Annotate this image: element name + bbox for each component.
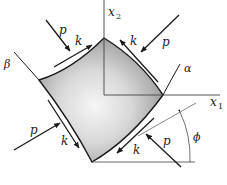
x1-label-sub: 1 [218, 102, 223, 111]
top-right-k-label: k [130, 34, 137, 48]
bottom-right-k-label: k [133, 143, 140, 157]
phi-arc [180, 112, 190, 162]
alpha-label: α [184, 62, 192, 75]
top-right-p-arrow [141, 15, 179, 52]
phi-label: ϕ [193, 131, 201, 144]
beta-line [14, 52, 39, 80]
stress-element-diagram: x 2 x 1 α β ϕ p k k p p k k p [0, 0, 227, 185]
top-right-p-label: p [162, 35, 170, 49]
beta-label: β [3, 58, 10, 71]
bottom-left-k-label: k [61, 134, 68, 148]
x1-label: x [210, 95, 217, 109]
element-body [39, 38, 163, 162]
top-left-k-label: k [75, 34, 82, 48]
top-left-p-label: p [59, 23, 67, 37]
alpha-line [163, 64, 180, 95]
bottom-right-p-label: p [163, 134, 171, 148]
bottom-left-p-label: p [30, 123, 38, 137]
x2-label-sub: 2 [116, 12, 121, 21]
x2-label: x [108, 5, 115, 19]
